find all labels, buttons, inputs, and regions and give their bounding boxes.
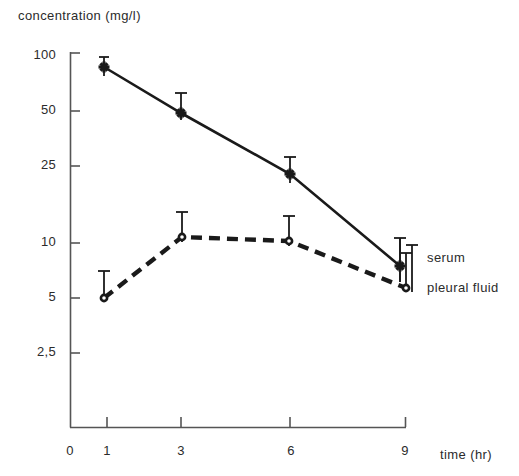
plot-area xyxy=(0,0,519,476)
series-pleural-fluid xyxy=(98,212,412,302)
axis-lines xyxy=(70,52,406,428)
x-axis-ticks xyxy=(107,417,406,427)
pleural-fluid-markers xyxy=(101,234,409,301)
y-axis-ticks xyxy=(70,53,80,353)
series-serum xyxy=(99,57,407,282)
pleural-fluid-error-bars xyxy=(98,212,412,302)
chart-figure: concentration (mg/l) time (hr) 100 50 25… xyxy=(0,0,519,476)
